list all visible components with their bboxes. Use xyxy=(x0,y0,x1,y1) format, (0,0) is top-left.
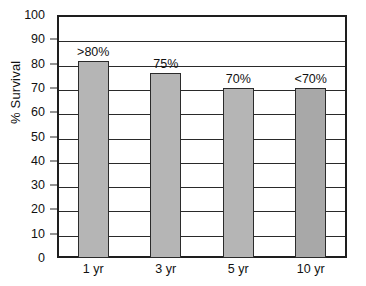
y-axis-tick-mark xyxy=(50,87,57,88)
y-axis-tick-mark xyxy=(50,136,57,137)
y-axis-tick-label: 80 xyxy=(31,57,45,70)
y-axis-tick-label: 100 xyxy=(24,9,45,22)
y-axis-tick-label: 20 xyxy=(31,203,45,216)
bar xyxy=(78,61,109,258)
y-axis-tick-mark xyxy=(50,63,57,64)
x-axis-labels: 1 yr3 yr5 yr10 yr xyxy=(57,263,347,285)
y-axis-tick-mark xyxy=(50,160,57,161)
y-axis-tick-mark xyxy=(50,233,57,234)
bar-value-label: 70% xyxy=(226,73,251,86)
y-axis-tick-label: 40 xyxy=(31,155,45,168)
y-axis-tick-label: 60 xyxy=(31,106,45,119)
y-axis-tick-label: 90 xyxy=(31,33,45,46)
bar-value-label: >80% xyxy=(77,46,109,59)
x-axis-tick-label: 1 yr xyxy=(83,263,104,276)
bar xyxy=(223,88,254,258)
x-axis-tick-label: 5 yr xyxy=(228,263,249,276)
y-axis-tick-label: 70 xyxy=(31,82,45,95)
y-axis-tick-mark xyxy=(50,112,57,113)
bar-value-label: <70% xyxy=(295,73,327,86)
y-axis-tick-label: 10 xyxy=(31,227,45,240)
bar xyxy=(295,88,326,258)
y-axis-tick-label: 50 xyxy=(31,130,45,143)
y-axis-tick-label: 30 xyxy=(31,179,45,192)
y-axis-tick-mark xyxy=(50,39,57,40)
bar-value-label: 75% xyxy=(153,58,178,71)
y-axis-ticks: 0102030405060708090100 xyxy=(0,0,57,286)
bar xyxy=(150,73,181,258)
survival-bar-chart: % Survival 0102030405060708090100 1 yr3 … xyxy=(0,0,366,286)
x-axis-tick-label: 3 yr xyxy=(155,263,176,276)
x-axis-tick-label: 10 yr xyxy=(297,263,325,276)
y-axis-tick-mark xyxy=(50,209,57,210)
y-axis-tick-mark xyxy=(50,185,57,186)
y-axis-tick-label: 0 xyxy=(38,252,45,265)
